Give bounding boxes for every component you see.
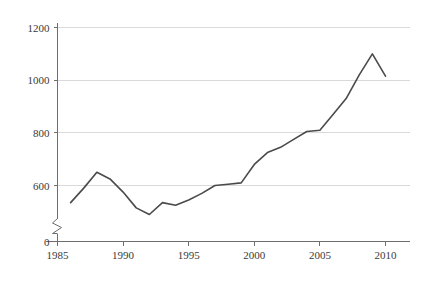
x-tick-label-1985: 1985 <box>47 249 70 261</box>
chart-canvas: 060080010001200 198519901995200020052010 <box>0 0 421 281</box>
y-tick-label-1000: 1000 <box>28 74 51 86</box>
x-tick-label-1990: 1990 <box>112 249 135 261</box>
x-tick-label-2005: 2005 <box>309 249 332 261</box>
line-chart: 060080010001200 198519901995200020052010 <box>0 0 421 281</box>
x-tick-label-1995: 1995 <box>178 249 201 261</box>
x-tick-label-2010: 2010 <box>375 249 398 261</box>
y-tick-label-0: 0 <box>44 236 50 248</box>
chart-background <box>0 0 421 281</box>
y-tick-label-1200: 1200 <box>28 22 51 34</box>
x-tick-label-2000: 2000 <box>243 249 266 261</box>
y-tick-label-600: 600 <box>33 180 50 192</box>
y-tick-label-800: 800 <box>33 127 50 139</box>
